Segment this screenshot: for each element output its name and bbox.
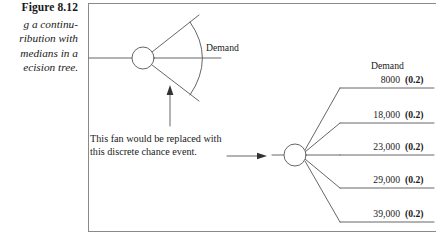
- fan-chance-node-circle: [132, 47, 154, 69]
- discrete-branch-diagonal-1: [305, 88, 340, 150]
- explanation-line-2: this discrete chance event.: [90, 145, 222, 158]
- branch-label-2: 18,000(0.2): [358, 110, 424, 120]
- explanation-arrow-head: [257, 153, 267, 160]
- explanation-line-1: This fan would be replaced with: [90, 132, 222, 145]
- fan-ray-upper: [152, 15, 199, 52]
- branch-label-4: 29,000(0.2): [358, 175, 424, 185]
- branch-value-5: 39,000: [358, 209, 400, 219]
- fan-arc: [190, 22, 203, 95]
- branch-value-3: 23,000: [358, 142, 400, 152]
- fan-ray-lower: [152, 65, 199, 101]
- discrete-branch-diagonal-2: [305, 123, 340, 152]
- branch-probability-5: (0.2): [405, 208, 424, 219]
- diagram-artwork: [0, 0, 436, 241]
- branch-label-5: 39,000(0.2): [358, 209, 424, 219]
- branch-value-2: 18,000: [358, 110, 400, 120]
- discrete-branch-diagonal-4: [305, 159, 340, 188]
- branch-probability-3: (0.2): [405, 141, 424, 152]
- figure-page: Figure 8.12 g a continu- ribution with m…: [0, 0, 436, 241]
- branch-label-1: 8000(0.2): [358, 75, 424, 85]
- discrete-chance-node-circle: [284, 144, 306, 166]
- branch-probability-1: (0.2): [405, 74, 424, 85]
- explanation-text: This fan would be replaced with this dis…: [90, 132, 222, 158]
- branch-value-4: 29,000: [358, 175, 400, 185]
- fan-pointer-arrow-head: [167, 85, 174, 95]
- discrete-demand-header: Demand: [371, 61, 404, 71]
- branch-probability-2: (0.2): [405, 109, 424, 120]
- branch-label-3: 23,000(0.2): [358, 142, 424, 152]
- fan-demand-label: Demand: [206, 43, 239, 53]
- branch-probability-4: (0.2): [405, 174, 424, 185]
- discrete-branch-diagonal-5: [305, 161, 340, 222]
- branch-value-1: 8000: [358, 75, 400, 85]
